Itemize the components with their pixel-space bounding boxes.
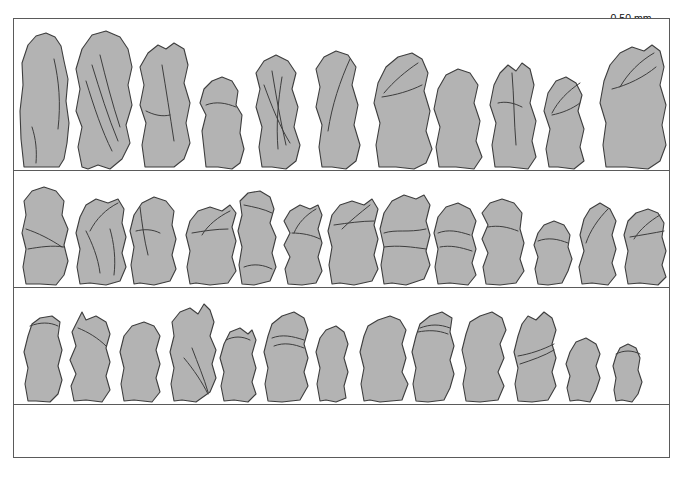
specimen-1-6	[316, 51, 360, 169]
plate-frame	[13, 18, 670, 458]
specimen-row-2-group	[22, 187, 666, 285]
specimen-2-2	[76, 199, 126, 285]
specimen-3-2	[70, 312, 110, 402]
specimen-3-7	[316, 326, 348, 402]
specimen-2-6	[284, 205, 322, 285]
specimen-1-7	[374, 53, 432, 169]
specimen-row-4	[14, 405, 669, 457]
specimen-row-4-drawing	[14, 405, 669, 457]
specimen-row-1	[14, 19, 669, 170]
specimen-2-10	[482, 199, 524, 285]
specimen-2-12	[579, 203, 616, 285]
specimen-1-8	[434, 69, 482, 169]
specimen-1-3	[140, 43, 190, 167]
specimen-3-4	[170, 304, 216, 402]
specimen-1-4	[200, 77, 244, 169]
specimen-row-2-drawing	[14, 171, 669, 287]
specimen-2-11	[534, 221, 572, 285]
specimen-2-9	[434, 203, 476, 285]
figure-plate: Icosium tomentosum 0.50 mm	[0, 0, 683, 477]
specimen-2-1	[22, 187, 68, 285]
specimen-2-8	[380, 195, 430, 285]
specimen-2-7	[328, 199, 378, 285]
specimen-1-1	[20, 33, 69, 167]
specimen-3-1	[24, 316, 62, 402]
specimen-row-1-drawing	[14, 19, 669, 170]
specimen-1-9	[490, 63, 536, 169]
specimen-1-11	[600, 45, 666, 169]
specimen-3-10	[462, 312, 506, 402]
specimen-row-3-drawing	[14, 288, 669, 404]
specimen-3-5	[220, 328, 256, 402]
specimen-1-10	[544, 77, 584, 169]
specimen-3-6	[264, 312, 308, 402]
specimen-row-3-group	[24, 304, 642, 402]
specimen-row-2	[14, 171, 669, 287]
specimen-1-2	[76, 31, 132, 169]
specimen-2-13	[624, 209, 666, 285]
specimen-row-1-group	[20, 31, 666, 169]
specimen-2-3	[130, 197, 176, 285]
specimen-3-12	[566, 338, 600, 402]
specimen-3-3	[120, 322, 160, 402]
specimen-2-4	[186, 205, 236, 285]
specimen-3-11	[514, 312, 556, 402]
specimen-3-8	[360, 316, 408, 402]
specimen-row-3	[14, 288, 669, 404]
